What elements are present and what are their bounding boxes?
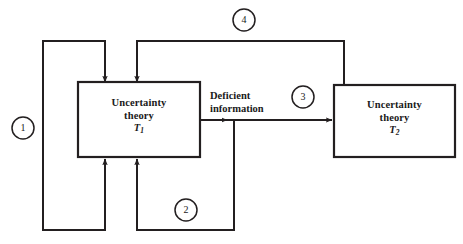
feedback-loop-4-path [137,41,344,84]
marker-3-circle [292,86,314,108]
diagram-canvas: Uncertainty theory T1 Uncertainty theory… [0,0,463,244]
deficient-information-label: Deficient information [210,90,264,115]
uncertainty-theory-t2-box-outline [334,85,455,157]
uncertainty-theory-t1-box-outline [78,82,200,157]
deficient-information-line-2: information [210,103,264,116]
marker-1-circle [12,117,34,139]
diagram-vector-layer [0,0,463,244]
marker-2-circle [175,199,197,221]
marker-4-circle [233,9,255,31]
deficient-information-line-1: Deficient [210,90,264,103]
